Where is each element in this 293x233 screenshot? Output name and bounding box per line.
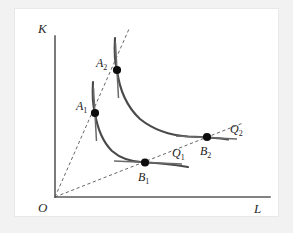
isoquant-diagram: A1 A2 B1 B2 Q1 Q2 K L O xyxy=(0,0,293,233)
marker-dot-b1[interactable] xyxy=(141,158,149,166)
label-q1-letter: Q xyxy=(172,146,181,160)
label-q2-letter: Q xyxy=(230,122,239,136)
label-q2-subscript: 2 xyxy=(239,129,243,138)
marker-dot-a1[interactable] xyxy=(91,109,99,117)
y-axis-label: K xyxy=(37,21,48,36)
label-q1: Q1 xyxy=(172,146,185,162)
axes-group xyxy=(55,36,270,197)
figure-root: A1 A2 B1 B2 Q1 Q2 K L O xyxy=(0,0,293,233)
isoquant-curve-q2 xyxy=(115,38,228,140)
label-a1: A1 xyxy=(75,99,87,115)
isoquant-curves-group xyxy=(93,38,228,167)
label-b2-subscript: 2 xyxy=(207,151,211,160)
label-b1: B1 xyxy=(138,170,149,186)
marker-dot-b2[interactable] xyxy=(203,133,211,141)
label-q1-subscript: 1 xyxy=(181,153,185,162)
label-b2: B2 xyxy=(200,144,211,160)
axis-labels-group: K L O xyxy=(37,21,261,216)
label-q2: Q2 xyxy=(230,122,243,138)
label-a2-subscript: 2 xyxy=(103,63,107,72)
x-axis-label: L xyxy=(253,201,261,216)
label-a2: A2 xyxy=(95,56,107,72)
point-markers-group xyxy=(91,66,211,167)
label-a1-subscript: 1 xyxy=(83,106,87,115)
label-b1-subscript: 1 xyxy=(145,177,149,186)
origin-label: O xyxy=(38,200,48,215)
marker-dot-a2[interactable] xyxy=(113,66,121,74)
